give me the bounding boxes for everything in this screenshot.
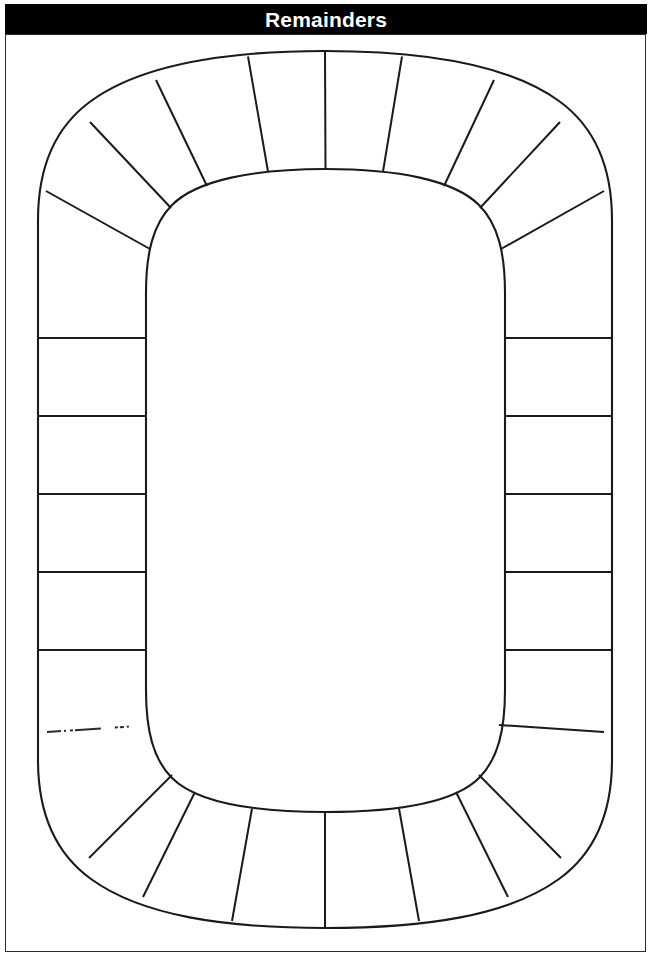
track-cell[interactable] [38,494,146,572]
track-cell[interactable] [38,338,146,416]
track-inner-outline [146,169,505,812]
track-cell[interactable] [38,416,146,494]
worksheet-page: Remainders [0,0,653,961]
track-cell[interactable] [38,572,146,650]
track-cell[interactable] [499,650,612,732]
track-cells[interactable] [38,51,612,928]
track-cell[interactable] [505,338,612,416]
track-cell[interactable] [38,650,153,732]
track-cell[interactable] [505,416,612,494]
game-track-svg [0,0,653,961]
track-cell[interactable] [505,494,612,572]
track-cell[interactable] [505,572,612,650]
remainders-game-track [0,0,653,961]
